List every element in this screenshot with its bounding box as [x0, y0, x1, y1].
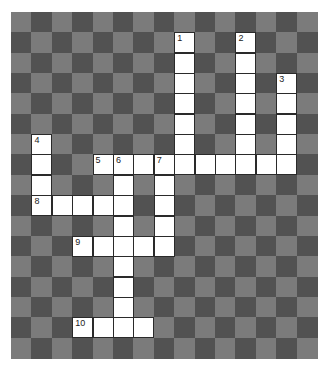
blocked-square — [256, 53, 277, 74]
crossword-cell[interactable]: 6 — [113, 154, 134, 175]
blocked-square — [31, 317, 52, 338]
crossword-cell[interactable] — [113, 297, 134, 318]
blocked-square — [113, 338, 134, 359]
blocked-square — [174, 195, 195, 216]
crossword-cell[interactable] — [113, 175, 134, 196]
crossword-cell[interactable] — [235, 53, 256, 74]
crossword-cell[interactable] — [72, 195, 93, 216]
crossword-cell[interactable] — [154, 175, 175, 196]
crossword-cell[interactable]: 4 — [31, 134, 52, 155]
crossword-cell[interactable] — [235, 114, 256, 135]
blocked-square — [276, 277, 297, 298]
blocked-square — [215, 114, 236, 135]
crossword-cell[interactable] — [235, 93, 256, 114]
crossword-cell[interactable] — [113, 277, 134, 298]
crossword-cell[interactable]: 10 — [72, 317, 93, 338]
blocked-square — [133, 93, 154, 114]
clue-number: 3 — [279, 74, 284, 85]
blocked-square — [276, 175, 297, 196]
crossword-cell[interactable]: 9 — [72, 236, 93, 257]
crossword-cell[interactable] — [276, 93, 297, 114]
blocked-square — [93, 338, 114, 359]
crossword-cell[interactable] — [31, 175, 52, 196]
blocked-square — [93, 12, 114, 33]
crossword-cell[interactable] — [174, 53, 195, 74]
crossword-cell[interactable] — [52, 195, 73, 216]
crossword-cell[interactable] — [154, 216, 175, 237]
crossword-cell[interactable] — [93, 195, 114, 216]
blocked-square — [11, 154, 32, 175]
crossword-cell[interactable] — [154, 236, 175, 257]
crossword-cell[interactable] — [113, 216, 134, 237]
crossword-cell[interactable]: 7 — [154, 154, 175, 175]
crossword-cell[interactable] — [113, 256, 134, 277]
blocked-square — [174, 12, 195, 33]
crossword-cell[interactable] — [235, 73, 256, 94]
blocked-square — [31, 73, 52, 94]
blocked-square — [256, 216, 277, 237]
crossword-cell[interactable] — [276, 154, 297, 175]
blocked-square — [154, 338, 175, 359]
blocked-square — [72, 277, 93, 298]
clue-number: 5 — [96, 155, 101, 166]
crossword-cell[interactable]: 8 — [31, 195, 52, 216]
blocked-square — [256, 134, 277, 155]
blocked-square — [133, 32, 154, 53]
blocked-square — [174, 256, 195, 277]
crossword-cell[interactable] — [174, 154, 195, 175]
crossword-cell[interactable] — [154, 195, 175, 216]
crossword-cell[interactable] — [133, 317, 154, 338]
crossword-cell[interactable] — [133, 154, 154, 175]
blocked-square — [133, 277, 154, 298]
blocked-square — [133, 256, 154, 277]
crossword-cell[interactable] — [276, 114, 297, 135]
blocked-square — [72, 93, 93, 114]
blocked-square — [11, 93, 32, 114]
crossword-cell[interactable] — [195, 154, 216, 175]
crossword-cell[interactable]: 1 — [174, 32, 195, 53]
blocked-square — [52, 114, 73, 135]
crossword-board: 12345678910 — [11, 12, 317, 358]
crossword-cell[interactable] — [113, 236, 134, 257]
crossword-cell[interactable] — [113, 317, 134, 338]
blocked-square — [256, 93, 277, 114]
blocked-square — [133, 216, 154, 237]
crossword-cell[interactable] — [174, 134, 195, 155]
blocked-square — [256, 32, 277, 53]
blocked-square — [297, 317, 318, 338]
crossword-cell[interactable]: 3 — [276, 73, 297, 94]
crossword-cell[interactable]: 2 — [235, 32, 256, 53]
blocked-square — [297, 53, 318, 74]
blocked-square — [235, 317, 256, 338]
blocked-square — [93, 93, 114, 114]
crossword-cell[interactable]: 5 — [93, 154, 114, 175]
blocked-square — [11, 134, 32, 155]
crossword-cell[interactable] — [174, 114, 195, 135]
blocked-square — [31, 256, 52, 277]
crossword-cell[interactable] — [235, 134, 256, 155]
blocked-square — [297, 73, 318, 94]
crossword-cell[interactable] — [133, 236, 154, 257]
blocked-square — [256, 256, 277, 277]
crossword-cell[interactable] — [93, 236, 114, 257]
crossword-cell[interactable] — [174, 73, 195, 94]
blocked-square — [11, 256, 32, 277]
blocked-square — [174, 236, 195, 257]
crossword-cell[interactable] — [235, 154, 256, 175]
crossword-cell[interactable] — [93, 317, 114, 338]
crossword-cell[interactable] — [276, 134, 297, 155]
blocked-square — [297, 256, 318, 277]
blocked-square — [215, 195, 236, 216]
crossword-cell[interactable] — [113, 195, 134, 216]
crossword-cell[interactable] — [31, 154, 52, 175]
blocked-square — [52, 317, 73, 338]
blocked-square — [93, 277, 114, 298]
crossword-cell[interactable] — [215, 154, 236, 175]
blocked-square — [195, 216, 216, 237]
crossword-cell[interactable] — [256, 154, 277, 175]
blocked-square — [215, 277, 236, 298]
blocked-square — [215, 53, 236, 74]
blocked-square — [215, 236, 236, 257]
crossword-cell[interactable] — [174, 93, 195, 114]
blocked-square — [195, 175, 216, 196]
